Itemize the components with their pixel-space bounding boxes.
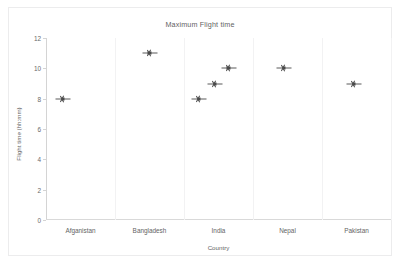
y-axis-tick-label: 6 bbox=[37, 126, 41, 133]
y-axis-title: Flight time (hh:mm) bbox=[15, 107, 22, 160]
y-axis-tick bbox=[43, 38, 46, 39]
data-point-marker[interactable] bbox=[56, 95, 71, 102]
y-axis-tick bbox=[43, 129, 46, 130]
plot-area: 024681012 AfganistanBangladeshIndiaNepal… bbox=[46, 38, 391, 220]
y-axis-tick-label: 12 bbox=[34, 35, 41, 42]
y-axis-tick-label: 4 bbox=[37, 156, 41, 163]
data-point-marker[interactable] bbox=[192, 95, 207, 102]
marker-core bbox=[352, 82, 356, 85]
y-axis-tick bbox=[43, 68, 46, 69]
data-point-marker[interactable] bbox=[347, 80, 362, 87]
x-axis-tick-label-bangladesh: Bangladesh bbox=[133, 227, 167, 234]
data-point-marker[interactable] bbox=[142, 50, 157, 57]
marker-core bbox=[227, 67, 231, 70]
category-gridline bbox=[184, 38, 185, 220]
category-axis-line bbox=[46, 219, 391, 220]
data-point-marker[interactable] bbox=[208, 80, 223, 87]
x-axis-tick-label-nepal: Nepal bbox=[279, 227, 296, 234]
y-axis-tick-label: 8 bbox=[37, 95, 41, 102]
marker-core bbox=[213, 82, 217, 85]
y-axis-tick bbox=[43, 190, 46, 191]
chart-title: Maximum Flight time bbox=[9, 20, 391, 29]
marker-core bbox=[148, 52, 152, 55]
x-axis-tick-label-india: India bbox=[212, 227, 226, 234]
category-gridline bbox=[322, 38, 323, 220]
y-axis-tick bbox=[43, 99, 46, 100]
value-axis-line bbox=[46, 38, 47, 220]
marker-core bbox=[282, 67, 286, 70]
y-axis-tick-label: 0 bbox=[37, 217, 41, 224]
x-axis-tick-label-afganistan: Afganistan bbox=[65, 227, 95, 234]
marker-core bbox=[197, 97, 201, 100]
chart-frame: Maximum Flight time 024681012 Afganistan… bbox=[8, 7, 392, 256]
y-axis-tick bbox=[43, 159, 46, 160]
marker-core bbox=[61, 97, 65, 100]
category-gridline bbox=[253, 38, 254, 220]
data-point-marker[interactable] bbox=[221, 65, 236, 72]
category-gridline bbox=[115, 38, 116, 220]
category-gridline bbox=[391, 38, 392, 220]
x-axis-tick-label-pakistan: Pakistan bbox=[344, 227, 369, 234]
y-axis-tick bbox=[43, 220, 46, 221]
x-axis-title: Country bbox=[46, 244, 391, 251]
y-axis-tick-label: 2 bbox=[37, 186, 41, 193]
data-point-marker[interactable] bbox=[277, 65, 292, 72]
y-axis-tick-label: 10 bbox=[34, 65, 41, 72]
